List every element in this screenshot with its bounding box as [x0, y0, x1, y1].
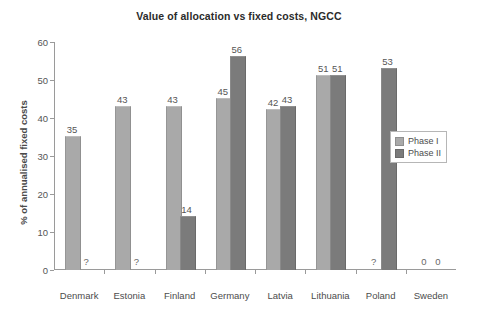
bar-chart: Value of allocation vs fixed costs, NGCC… [0, 0, 478, 313]
bar [230, 56, 246, 270]
bar-value-label: 42 [268, 97, 279, 108]
y-tick-label: 20 [37, 189, 48, 200]
x-category-label: Lithuania [311, 290, 350, 301]
bar-value-label: 43 [282, 94, 293, 105]
bar [381, 68, 397, 270]
bar-value-label: 14 [181, 204, 192, 215]
y-tick-mark [50, 118, 54, 119]
bar [280, 106, 296, 270]
y-tick-mark [50, 232, 54, 233]
chart-title: Value of allocation vs fixed costs, NGCC [0, 10, 478, 22]
legend-item: Phase II [395, 147, 441, 159]
legend-label: Phase I [408, 136, 439, 146]
bar-value-label: 35 [67, 124, 78, 135]
y-axis-line [54, 42, 55, 270]
bar-value-label: 43 [117, 94, 128, 105]
y-tick-label: 40 [37, 113, 48, 124]
y-tick-label: 10 [37, 227, 48, 238]
x-tick-mark [155, 270, 156, 274]
bar-value-label: 0 [435, 256, 440, 267]
x-tick-mark [255, 270, 256, 274]
y-tick-label: 0 [43, 265, 48, 276]
bar-value-label: ? [371, 256, 376, 267]
bar-value-label: 45 [218, 86, 229, 97]
bar [330, 75, 346, 270]
x-tick-mark [104, 270, 105, 274]
legend-label: Phase II [408, 148, 441, 158]
x-tick-mark [356, 270, 357, 274]
x-tick-mark [406, 270, 407, 274]
bar [115, 106, 131, 270]
y-tick-label: 60 [37, 37, 48, 48]
bar-value-label: 43 [167, 94, 178, 105]
x-tick-mark [305, 270, 306, 274]
y-tick-mark [50, 80, 54, 81]
y-tick-mark [50, 194, 54, 195]
bar-value-label: 0 [421, 256, 426, 267]
x-category-label: Finland [164, 290, 195, 301]
y-tick-mark [50, 42, 54, 43]
legend-swatch-icon [395, 137, 404, 146]
y-tick-mark [50, 270, 54, 271]
legend-item: Phase I [395, 135, 441, 147]
chart-legend: Phase IPhase II [390, 131, 447, 163]
y-tick-mark [50, 156, 54, 157]
legend-swatch-icon [395, 149, 404, 158]
x-category-label: Sweden [414, 290, 448, 301]
bar-value-label: ? [83, 256, 88, 267]
x-category-label: Denmark [60, 290, 99, 301]
bar-value-label: 51 [318, 63, 329, 74]
bar-value-label: 56 [232, 44, 243, 55]
x-category-label: Latvia [267, 290, 292, 301]
bar-value-label: 53 [382, 56, 393, 67]
x-tick-mark [205, 270, 206, 274]
y-tick-label: 50 [37, 75, 48, 86]
x-category-label: Poland [366, 290, 396, 301]
y-axis-title: % of annualised fixed costs [18, 63, 29, 263]
bar-value-label: 51 [332, 63, 343, 74]
x-category-label: Germany [210, 290, 249, 301]
bar-value-label: ? [134, 256, 139, 267]
bar [65, 136, 81, 270]
x-category-label: Estonia [114, 290, 146, 301]
y-tick-label: 30 [37, 151, 48, 162]
bar [180, 216, 196, 270]
